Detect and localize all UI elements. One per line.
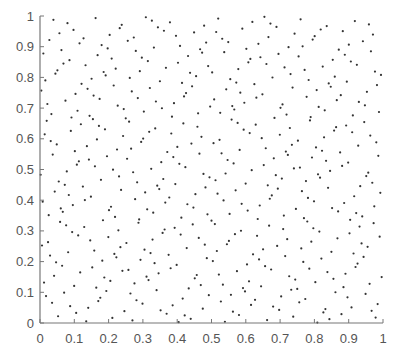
data-point	[132, 171, 134, 173]
data-point	[83, 226, 85, 228]
data-point	[168, 254, 170, 256]
data-point	[302, 45, 304, 47]
data-point	[328, 82, 330, 84]
data-point	[67, 251, 69, 253]
data-point	[183, 95, 185, 97]
data-point	[82, 37, 84, 39]
data-point	[339, 151, 341, 153]
data-point	[86, 88, 88, 90]
data-point	[171, 116, 173, 118]
data-point	[88, 115, 90, 117]
data-point	[267, 36, 269, 38]
data-point	[205, 41, 207, 43]
data-point	[103, 71, 105, 73]
data-point	[76, 110, 78, 112]
data-point	[287, 154, 289, 156]
data-point	[362, 40, 364, 42]
data-point	[309, 119, 311, 121]
data-point	[211, 71, 213, 73]
data-point	[128, 121, 130, 123]
x-tick-label: 1	[379, 331, 386, 346]
data-point	[296, 288, 298, 290]
data-point	[114, 216, 116, 218]
data-point	[318, 231, 320, 233]
data-point	[352, 252, 354, 254]
data-point	[292, 316, 294, 318]
data-point	[326, 271, 328, 273]
data-point	[342, 30, 344, 32]
data-point	[147, 60, 149, 62]
data-point	[325, 160, 327, 162]
x-tick-label: 0.4	[168, 331, 186, 346]
data-point	[320, 28, 322, 30]
data-point	[284, 255, 286, 257]
data-point	[149, 252, 151, 254]
data-point	[187, 55, 189, 57]
data-point	[57, 315, 59, 317]
data-point	[230, 294, 232, 296]
data-point	[56, 143, 58, 145]
data-point	[226, 243, 228, 245]
data-point	[190, 143, 192, 145]
data-point	[182, 122, 184, 124]
data-point	[237, 68, 239, 70]
data-point	[200, 284, 202, 286]
data-point	[115, 68, 117, 70]
data-point	[52, 19, 54, 21]
data-point	[359, 185, 361, 187]
x-tick-label: 0.1	[65, 331, 83, 346]
data-point	[313, 200, 315, 202]
data-point	[248, 280, 250, 282]
data-point	[192, 207, 194, 209]
data-point	[247, 209, 249, 211]
data-point	[46, 120, 48, 122]
data-point	[140, 141, 142, 143]
data-point	[333, 129, 335, 131]
data-point	[257, 43, 259, 45]
data-point	[181, 82, 183, 84]
data-point	[320, 257, 322, 259]
data-point	[373, 222, 375, 224]
data-point	[362, 256, 364, 258]
data-point	[261, 93, 263, 95]
data-point	[263, 164, 265, 166]
data-point	[80, 83, 82, 85]
data-point	[358, 101, 360, 103]
data-point	[196, 126, 198, 128]
data-point	[144, 191, 146, 193]
data-point	[147, 279, 149, 281]
data-point	[170, 132, 172, 134]
data-point	[265, 63, 267, 65]
data-point	[192, 223, 194, 225]
data-point	[79, 271, 81, 273]
data-point	[52, 153, 54, 155]
data-point	[324, 308, 326, 310]
data-point	[288, 275, 290, 277]
data-point	[90, 196, 92, 198]
data-point	[202, 308, 204, 310]
data-point	[58, 32, 60, 34]
data-point	[180, 217, 182, 219]
data-point	[129, 77, 131, 79]
data-point	[224, 172, 226, 174]
data-point	[42, 52, 44, 54]
data-point	[87, 307, 89, 309]
data-point	[109, 280, 111, 282]
data-point	[256, 235, 258, 237]
data-point	[91, 266, 93, 268]
data-point	[366, 246, 368, 248]
data-point	[163, 30, 165, 32]
data-point	[351, 131, 353, 133]
data-point	[368, 23, 370, 25]
data-point	[127, 269, 129, 271]
data-point	[328, 318, 330, 320]
data-point	[249, 132, 251, 134]
data-point	[356, 263, 358, 265]
data-point	[285, 113, 287, 115]
data-point	[202, 173, 204, 175]
data-point	[44, 133, 46, 135]
data-point	[196, 274, 198, 276]
x-tick-label: 0.9	[340, 331, 358, 346]
data-point	[70, 116, 72, 118]
data-point	[305, 180, 307, 182]
